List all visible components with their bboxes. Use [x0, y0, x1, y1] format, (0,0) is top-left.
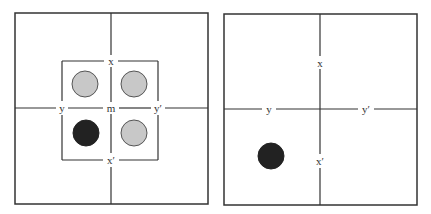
right-label-y-prime: y′ — [362, 103, 370, 115]
left-label-x: x — [108, 55, 114, 67]
left-label-y: y — [59, 102, 65, 114]
left-label-y-prime: y′ — [154, 102, 162, 114]
left-label-m: m — [107, 102, 116, 114]
left-circle-bottom-left-filled — [73, 120, 99, 146]
left-panel: x x′ y y′ m — [15, 13, 208, 204]
diagram-figure: x x′ y y′ m x x′ y y′ — [0, 0, 431, 214]
right-label-x-prime: x′ — [316, 155, 324, 167]
right-label-y: y — [266, 103, 272, 115]
right-circle-bottom-left-filled — [258, 143, 284, 169]
left-circle-top-left — [72, 71, 98, 97]
right-panel: x x′ y y′ — [224, 14, 417, 205]
left-label-x-prime: x′ — [107, 154, 115, 166]
right-label-x: x — [317, 57, 323, 69]
left-circle-top-right — [121, 71, 147, 97]
left-circle-bottom-right — [121, 120, 147, 146]
